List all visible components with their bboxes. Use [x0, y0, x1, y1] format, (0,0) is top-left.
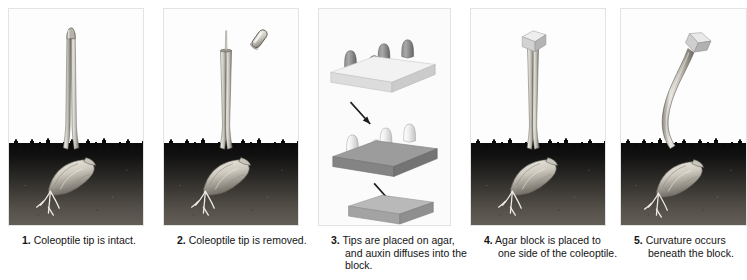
caption-panel-5: 5. Curvature occurs beneath the block.	[634, 234, 747, 259]
agar-stage-3	[349, 195, 434, 224]
caption-panel-1: 1. Coleoptile tip is intact.	[22, 234, 156, 247]
agar-block-on-tip	[522, 31, 546, 52]
agar-stage-2	[333, 124, 437, 177]
seed-4	[510, 158, 557, 196]
caption-text-4: Agar block is placed to one side of the …	[495, 234, 617, 259]
coleoptile-shaft-right-2	[225, 51, 232, 150]
coleoptile-shaft-right-1	[71, 31, 79, 150]
coleoptile-shaft-right-4	[532, 47, 539, 150]
panel-4[interactable]	[470, 8, 606, 226]
caption-number-5: 5.	[634, 234, 643, 246]
panel-2[interactable]	[163, 8, 299, 226]
caption-text-1: Coleoptile tip is intact.	[34, 234, 136, 246]
caption-number-2: 2.	[177, 234, 186, 246]
coleoptile-auxin-figure: 1. Coleoptile tip is intact. 2. Coleopti…	[0, 0, 747, 280]
tip-highlight-1	[68, 30, 70, 39]
block-on-coleoptile-art	[471, 9, 605, 225]
caption-text-3: Tips are placed on agar, and auxin diffu…	[343, 234, 467, 271]
caption-panel-4: 4. Agar block is placed to one side of t…	[484, 234, 620, 259]
seed-1	[48, 158, 95, 196]
caption-number-3: 3.	[331, 234, 340, 246]
seed-5	[656, 160, 703, 198]
tip-removed-coleoptile-art	[164, 9, 298, 225]
caption-text-2: Coleoptile tip is removed.	[189, 234, 307, 246]
caption-panel-2: 2. Coleoptile tip is removed.	[177, 234, 311, 247]
caption-number-1: 1.	[22, 234, 31, 246]
coleoptile-shaft-1	[63, 31, 71, 150]
arrow-stage1-to-stage2	[351, 102, 371, 124]
caption-number-4: 4.	[484, 234, 493, 246]
agar-stage-1	[331, 40, 435, 93]
panel-5[interactable]	[620, 8, 747, 226]
detached-coleoptile-tip	[250, 28, 269, 50]
inner-leaf-spike	[225, 31, 227, 51]
panel-1[interactable]	[8, 8, 144, 226]
caption-panel-3: 3. Tips are placed on agar, and auxin di…	[331, 234, 471, 272]
curved-coleoptile-art	[621, 9, 746, 225]
seed-2	[203, 158, 250, 196]
panel-3[interactable]	[318, 8, 451, 226]
caption-text-5: Curvature occurs beneath the block.	[646, 234, 734, 259]
tips-on-agar-art	[319, 9, 450, 225]
intact-coleoptile-art	[9, 9, 143, 225]
